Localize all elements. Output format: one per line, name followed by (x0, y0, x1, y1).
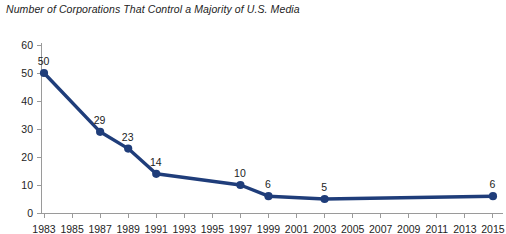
x-tick-label: 2007 (369, 223, 393, 234)
x-tick-label: 1989 (117, 223, 141, 234)
x-tick-label: 1983 (32, 223, 56, 234)
y-tick-label: 60 (21, 39, 33, 51)
data-point-label: 6 (490, 178, 496, 190)
y-tick-label: 50 (21, 67, 33, 79)
x-tick-label: 1993 (173, 223, 197, 234)
data-point-marker (152, 170, 160, 178)
chart-container: Number of Corporations That Control a Ma… (0, 0, 506, 234)
x-tick-label: 2011 (426, 223, 449, 234)
data-point-marker (264, 192, 272, 200)
line-chart-plot: 0102030405060 5029231410656 198319851987… (0, 0, 506, 234)
x-tick-label: 1987 (88, 223, 112, 234)
data-point-label: 5 (321, 181, 327, 193)
y-tick-label: 20 (21, 151, 33, 163)
y-tick-label: 0 (27, 207, 33, 219)
data-point-marker (124, 145, 132, 153)
data-point-marker (96, 128, 104, 136)
data-point-label: 29 (94, 114, 106, 126)
x-tick-label: 2015 (481, 223, 505, 234)
y-tick-label: 10 (21, 179, 33, 191)
x-tick-label: 2005 (341, 223, 365, 234)
x-tick-label: 1999 (257, 223, 281, 234)
x-tick-label: 1991 (145, 223, 169, 234)
x-tick-label: 1985 (60, 223, 84, 234)
x-tick-label: 2001 (285, 223, 309, 234)
data-point-marker (321, 195, 329, 203)
x-axis-ticks (44, 213, 493, 218)
x-tick-label: 2013 (453, 223, 477, 234)
x-tick-label: 1997 (229, 223, 253, 234)
data-point-label: 6 (265, 178, 271, 190)
data-point-label: 50 (38, 55, 50, 67)
x-tick-label: 2009 (397, 223, 421, 234)
x-tick-label: 1995 (201, 223, 225, 234)
data-point-label: 10 (234, 167, 246, 179)
y-tick-label: 40 (21, 95, 33, 107)
x-axis-labels: 1983198519871989199119931995199719992001… (32, 223, 504, 234)
data-point-labels: 5029231410656 (38, 55, 496, 193)
data-point-label: 14 (150, 156, 162, 168)
x-tick-label: 2003 (313, 223, 337, 234)
data-point-marker (40, 69, 48, 77)
data-point-marker (236, 181, 244, 189)
y-tick-label: 30 (21, 123, 33, 135)
data-point-marker (489, 192, 497, 200)
data-point-label: 23 (122, 131, 134, 143)
